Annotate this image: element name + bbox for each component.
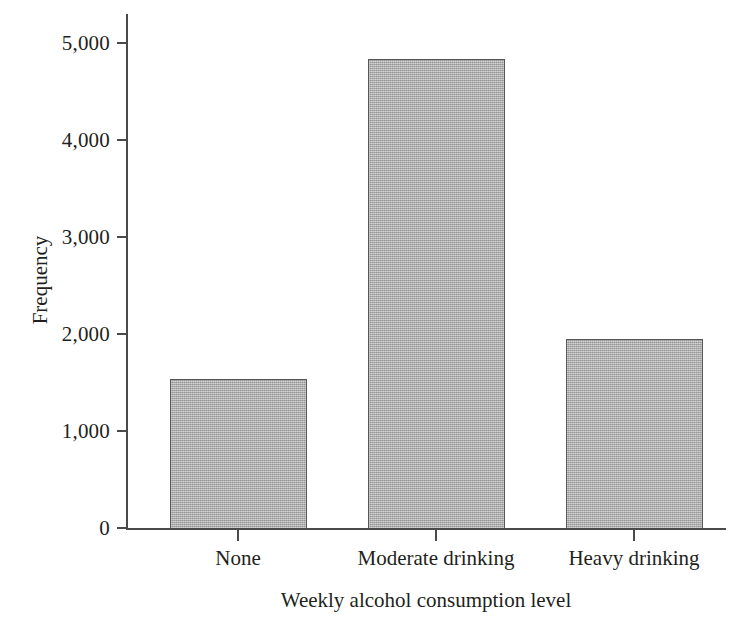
- x-axis-title: Weekly alcohol consumption level: [126, 588, 726, 612]
- x-axis-tick-label-heavy-drinking: Heavy drinking: [568, 546, 699, 570]
- y-axis-tick-label: 4,000: [10, 130, 110, 151]
- y-axis-title: Frequency: [30, 150, 51, 410]
- x-axis-tick-label-moderate-drinking: Moderate drinking: [358, 546, 515, 570]
- y-axis-tick-mark: [117, 236, 127, 238]
- y-axis-tick-mark: [117, 333, 127, 335]
- y-axis-tick-label: 3,000: [10, 227, 110, 248]
- y-axis-line: [126, 14, 128, 530]
- y-axis-tick-mark: [117, 42, 127, 44]
- x-axis-tick-mark: [435, 530, 437, 541]
- y-axis-tick-mark: [117, 430, 127, 432]
- y-axis-tick-label: 0: [10, 518, 110, 539]
- bar-moderate-drinking: [368, 59, 505, 529]
- bar-chart: 5,000 4,000 3,000 2,000 1,000 0 None Mod…: [0, 0, 745, 630]
- x-axis-tick-mark: [633, 530, 635, 541]
- y-axis-tick-label: 5,000: [10, 33, 110, 54]
- bar-none: [170, 379, 307, 529]
- x-axis-tick-mark: [237, 530, 239, 541]
- x-axis-line: [126, 528, 726, 530]
- y-axis-tick-mark: [117, 139, 127, 141]
- y-axis-tick-label: 1,000: [10, 421, 110, 442]
- y-axis-tick-label: 2,000: [10, 324, 110, 345]
- bar-heavy-drinking: [566, 339, 703, 529]
- y-axis-tick-mark: [117, 527, 127, 529]
- x-axis-tick-label-none: None: [215, 546, 261, 570]
